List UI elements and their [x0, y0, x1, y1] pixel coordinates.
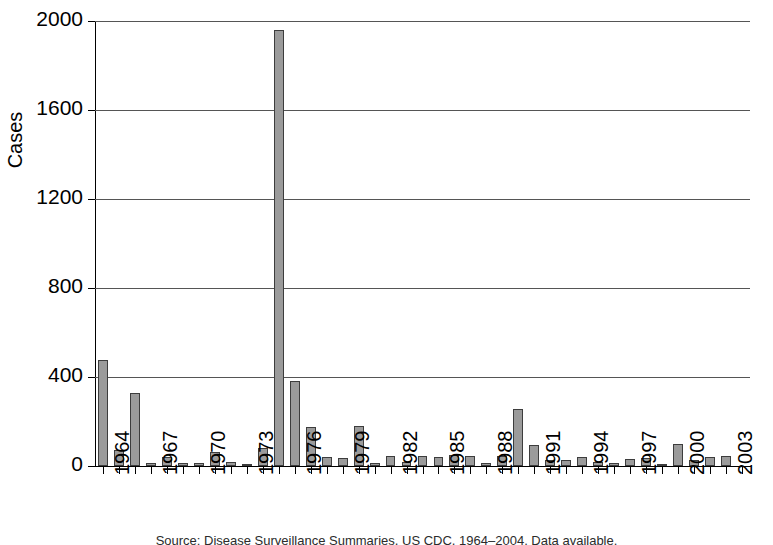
- x-tick-mark: [279, 466, 280, 474]
- x-tick-label: 1985: [446, 431, 469, 476]
- x-tick-mark: [614, 466, 615, 474]
- x-tick-mark: [151, 466, 152, 474]
- y-tick-label: 0: [71, 452, 83, 476]
- gridline: [95, 199, 750, 200]
- x-tick-label: 1979: [351, 431, 374, 476]
- figure-caption: Source: Disease Surveillance Summaries, …: [0, 533, 773, 545]
- y-tick-mark: [88, 21, 95, 22]
- x-tick-mark: [566, 466, 567, 474]
- bar: [386, 456, 396, 466]
- x-tick-mark: [231, 466, 232, 474]
- x-tick-label: 1973: [255, 431, 278, 476]
- x-tick-mark: [630, 466, 631, 474]
- x-tick-mark: [438, 466, 439, 474]
- x-tick-label: 1988: [494, 431, 517, 476]
- gridline: [95, 288, 750, 289]
- x-tick-mark: [183, 466, 184, 474]
- bar: [338, 458, 348, 466]
- bar: [194, 463, 204, 466]
- x-tick-mark: [710, 466, 711, 474]
- bar: [290, 381, 300, 466]
- x-tick-mark: [662, 466, 663, 474]
- y-tick-label: 2000: [36, 7, 83, 31]
- x-tick-mark: [391, 466, 392, 474]
- x-tick-label: 1964: [111, 431, 134, 476]
- y-tick-mark: [88, 199, 95, 200]
- y-tick-label: 1600: [36, 96, 83, 120]
- x-tick-mark: [343, 466, 344, 474]
- y-axis-title: Cases: [4, 80, 27, 200]
- x-tick-mark: [470, 466, 471, 474]
- y-axis-line: [95, 21, 96, 467]
- x-tick-label: 1970: [207, 431, 230, 476]
- x-tick-mark: [327, 466, 328, 474]
- x-tick-label: 1997: [638, 431, 661, 476]
- bar: [721, 456, 731, 466]
- x-tick-label: 2003: [734, 431, 757, 476]
- x-tick-label: 1967: [159, 431, 182, 476]
- x-tick-mark: [199, 466, 200, 474]
- bar-chart: Cases 0400800120016002000 19641967197019…: [0, 0, 773, 545]
- bar: [274, 30, 284, 466]
- bar: [577, 457, 587, 466]
- y-tick-label: 800: [48, 274, 83, 298]
- bar: [529, 445, 539, 466]
- bar: [242, 464, 252, 466]
- y-tick-mark: [88, 466, 95, 467]
- x-tick-label: 1982: [399, 431, 422, 476]
- x-tick-mark: [726, 466, 727, 474]
- x-tick-mark: [486, 466, 487, 474]
- x-tick-label: 1991: [542, 431, 565, 476]
- x-tick-mark: [295, 466, 296, 474]
- y-tick-label: 1200: [36, 185, 83, 209]
- x-tick-mark: [135, 466, 136, 474]
- gridline: [95, 377, 750, 378]
- bar: [625, 459, 635, 466]
- x-tick-label: 1994: [590, 431, 613, 476]
- x-tick-mark: [423, 466, 424, 474]
- bar: [481, 463, 491, 466]
- y-tick-label: 400: [48, 363, 83, 387]
- plot-area: 0400800120016002000: [95, 21, 750, 466]
- x-tick-mark: [534, 466, 535, 474]
- gridline: [95, 110, 750, 111]
- x-tick-mark: [518, 466, 519, 474]
- x-tick-label: 1976: [303, 431, 326, 476]
- x-tick-mark: [582, 466, 583, 474]
- gridline: [95, 21, 750, 22]
- x-tick-mark: [103, 466, 104, 474]
- y-tick-mark: [88, 110, 95, 111]
- x-tick-mark: [375, 466, 376, 474]
- y-tick-mark: [88, 288, 95, 289]
- bar: [434, 457, 444, 466]
- x-tick-mark: [678, 466, 679, 474]
- x-tick-mark: [247, 466, 248, 474]
- bar: [146, 463, 156, 466]
- bar: [98, 360, 108, 466]
- y-tick-mark: [88, 377, 95, 378]
- x-tick-label: 2000: [686, 431, 709, 476]
- bar: [673, 444, 683, 466]
